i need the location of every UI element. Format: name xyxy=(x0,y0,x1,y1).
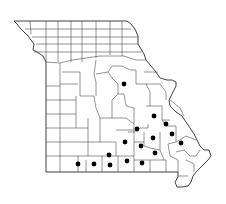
county-marker-dot xyxy=(170,132,175,137)
county-marker-dot xyxy=(125,159,130,164)
missouri-county-map xyxy=(0,0,226,204)
county-marker-dot xyxy=(153,151,158,156)
county-marker-dot xyxy=(152,114,157,119)
county-marker-dot xyxy=(76,162,81,167)
state-outline xyxy=(14,21,211,187)
county-marker-dot xyxy=(92,162,97,167)
county-marker-dot xyxy=(122,82,127,87)
county-marker-dot xyxy=(151,136,156,141)
county-marker-dot xyxy=(179,141,184,146)
county-marker-dot xyxy=(108,163,113,168)
county-marker-dot xyxy=(135,127,140,132)
county-marker-dot xyxy=(107,153,112,158)
county-marker-dot xyxy=(140,161,145,166)
county-marker-dot xyxy=(139,144,144,149)
county-marker-dot xyxy=(123,140,128,145)
county-marker-dot xyxy=(164,122,169,127)
missouri-boundary xyxy=(14,21,211,187)
